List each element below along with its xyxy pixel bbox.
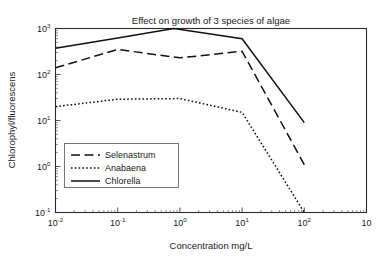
chart-legend: SelenastrumAnabaenaChlorella [65, 144, 179, 188]
chart-canvas: Effect on growth of 3 species of algae 1… [0, 0, 378, 259]
y-axis-title: Chlorophyl/fluorescens [6, 71, 17, 168]
legend-label-anabaena: Anabaena [105, 163, 146, 173]
chart-title: Effect on growth of 3 species of algae [132, 15, 290, 26]
legend-label-chlorella: Chlorella [105, 176, 141, 186]
x-axis-title: Concentration mg/L [170, 240, 253, 251]
legend-label-selenastrum: Selenastrum [105, 150, 156, 160]
chart-figure: Effect on growth of 3 species of algae 1… [0, 0, 378, 259]
x-tick-label: 10 [361, 218, 371, 228]
